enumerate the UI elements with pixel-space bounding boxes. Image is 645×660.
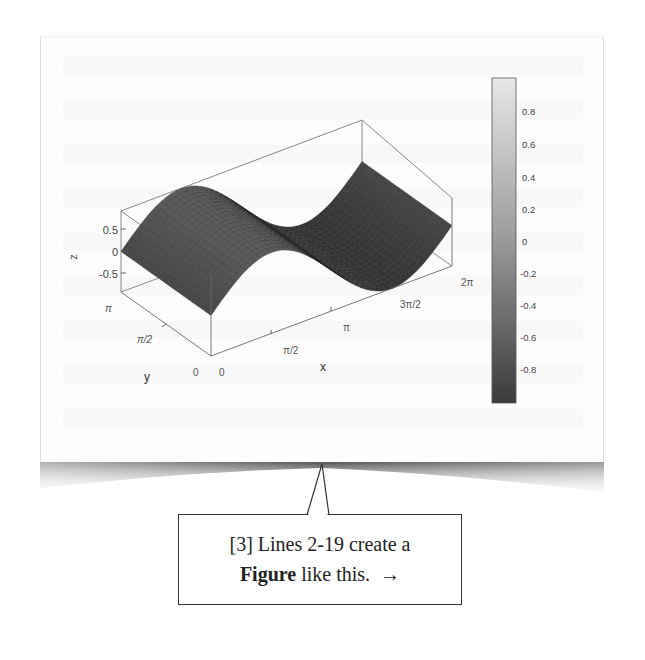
callout-line-1: [3] Lines 2-19 create a	[179, 529, 461, 559]
callout-bold-term: Figure	[240, 563, 296, 585]
arrow-right-icon: →	[380, 563, 400, 585]
callout-line-2: Figure like this. →	[179, 559, 461, 589]
callout-box: [3] Lines 2-19 create a Figure like this…	[178, 514, 462, 605]
callout-text: like this.	[296, 563, 370, 585]
